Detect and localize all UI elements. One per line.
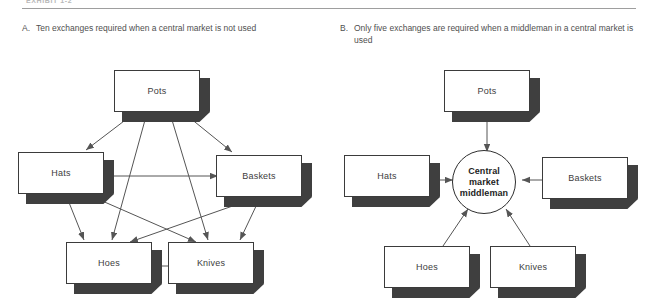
node-box-hats-a: Hats [18, 152, 114, 204]
box-bottom-face [26, 194, 114, 204]
edge-pots-hoes [112, 120, 145, 240]
box-front-face: Hats [18, 152, 104, 194]
node-box-knives-a: Knives [168, 242, 264, 294]
box-bottom-face [392, 288, 480, 298]
box-bottom-face [352, 197, 440, 207]
node-box-baskets-b: Baskets [542, 157, 638, 209]
circle-face: Central market middleman [452, 150, 516, 214]
edge-baskets-knives [240, 202, 258, 240]
box-front-face: Hats [344, 155, 430, 197]
box-front-face: Knives [168, 242, 254, 284]
box-front-face: Hoes [384, 246, 470, 288]
panel-b-caption: B. Only five exchanges are required when… [340, 22, 640, 46]
node-label: Knives [519, 262, 547, 272]
panel-b: B. Only five exchanges are required when… [340, 22, 640, 46]
exhibit-figure: EXHIBIT 1-2 A. Ten exchanges required wh… [0, 0, 654, 304]
box-bottom-face [224, 197, 312, 207]
center-label-line3: middleman [460, 188, 508, 199]
edge-baskets-hoes [130, 202, 244, 242]
center-label-line2: market [469, 177, 499, 188]
exhibit-number: EXHIBIT 1-2 [26, 0, 72, 4]
node-box-knives-b: Knives [490, 246, 586, 298]
node-box-hoes-a: Hoes [66, 242, 162, 294]
node-label: Hoes [416, 262, 438, 272]
panel-a-caption: A. Ten exchanges required when a central… [22, 22, 322, 34]
box-bottom-face [74, 284, 162, 294]
node-label: Hats [377, 171, 396, 181]
box-front-face: Hoes [66, 242, 152, 284]
box-bottom-face [550, 199, 638, 209]
center-label-line1: Central [468, 166, 500, 177]
box-front-face: Baskets [216, 155, 302, 197]
node-box-hats-b: Hats [344, 155, 440, 207]
box-bottom-face [498, 288, 586, 298]
panel-a-caption-text: Ten exchanges required when a central ma… [36, 22, 322, 34]
edge-hats-knives [100, 200, 196, 242]
box-front-face: Pots [114, 70, 200, 112]
box-front-face: Pots [444, 70, 530, 112]
box-bottom-face [122, 112, 210, 122]
node-label: Hoes [98, 258, 120, 268]
box-front-face: Knives [490, 246, 576, 288]
node-label: Hats [51, 168, 70, 178]
node-label: Knives [197, 258, 225, 268]
node-box-pots-a: Pots [114, 70, 210, 122]
node-label: Pots [478, 86, 497, 96]
header-divider [22, 8, 636, 9]
edge-hats-hoes [68, 200, 84, 240]
edge-pots-knives [172, 120, 208, 240]
node-label: Pots [148, 86, 167, 96]
node-label: Baskets [242, 171, 275, 181]
panel-a: A. Ten exchanges required when a central… [22, 22, 322, 34]
box-bottom-face [452, 112, 540, 122]
edge-pots-hats [86, 118, 128, 150]
central-market-middleman-node: Central market middleman [452, 150, 528, 222]
box-bottom-face [176, 284, 264, 294]
node-box-baskets-a: Baskets [216, 155, 312, 207]
box-front-face: Baskets [542, 157, 628, 199]
node-box-hoes-b: Hoes [384, 246, 480, 298]
node-box-pots-b: Pots [444, 70, 540, 122]
panel-b-caption-text: Only five exchanges are required when a … [354, 22, 640, 46]
node-label: Baskets [568, 173, 601, 183]
panel-a-letter: A. [22, 22, 36, 34]
panel-b-letter: B. [340, 22, 354, 46]
edge-pots-baskets [190, 118, 232, 152]
